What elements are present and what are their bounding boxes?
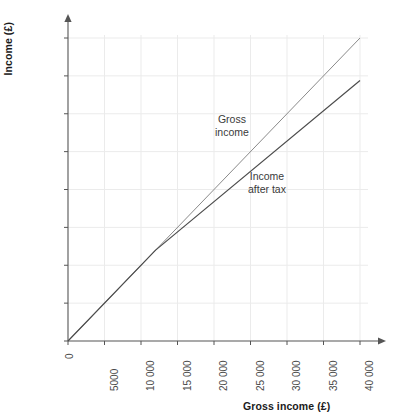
y-axis-title: Income (£) bbox=[2, 22, 14, 76]
annotation-income-after-tax: Income after tax bbox=[248, 170, 286, 196]
chart-plot-area bbox=[0, 0, 394, 418]
annotation-gross-income: Gross income bbox=[215, 113, 249, 139]
x-axis-title: Gross income (£) bbox=[243, 400, 330, 412]
income-after-tax-chart: 0500010 00015 00020 00025 00030 00035 00… bbox=[0, 0, 394, 418]
